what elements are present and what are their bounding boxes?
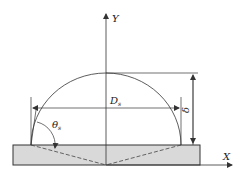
contact-angle-label: θs bbox=[52, 119, 61, 131]
substrate bbox=[13, 145, 200, 165]
y-axis-label: Y bbox=[112, 13, 120, 24]
droplet-diagram: Y X δ Ds θs bbox=[0, 0, 242, 172]
height-label: δ bbox=[180, 107, 191, 113]
tangent-line bbox=[31, 110, 36, 145]
x-axis-label: X bbox=[222, 151, 231, 162]
diameter-label: Ds bbox=[109, 95, 121, 107]
